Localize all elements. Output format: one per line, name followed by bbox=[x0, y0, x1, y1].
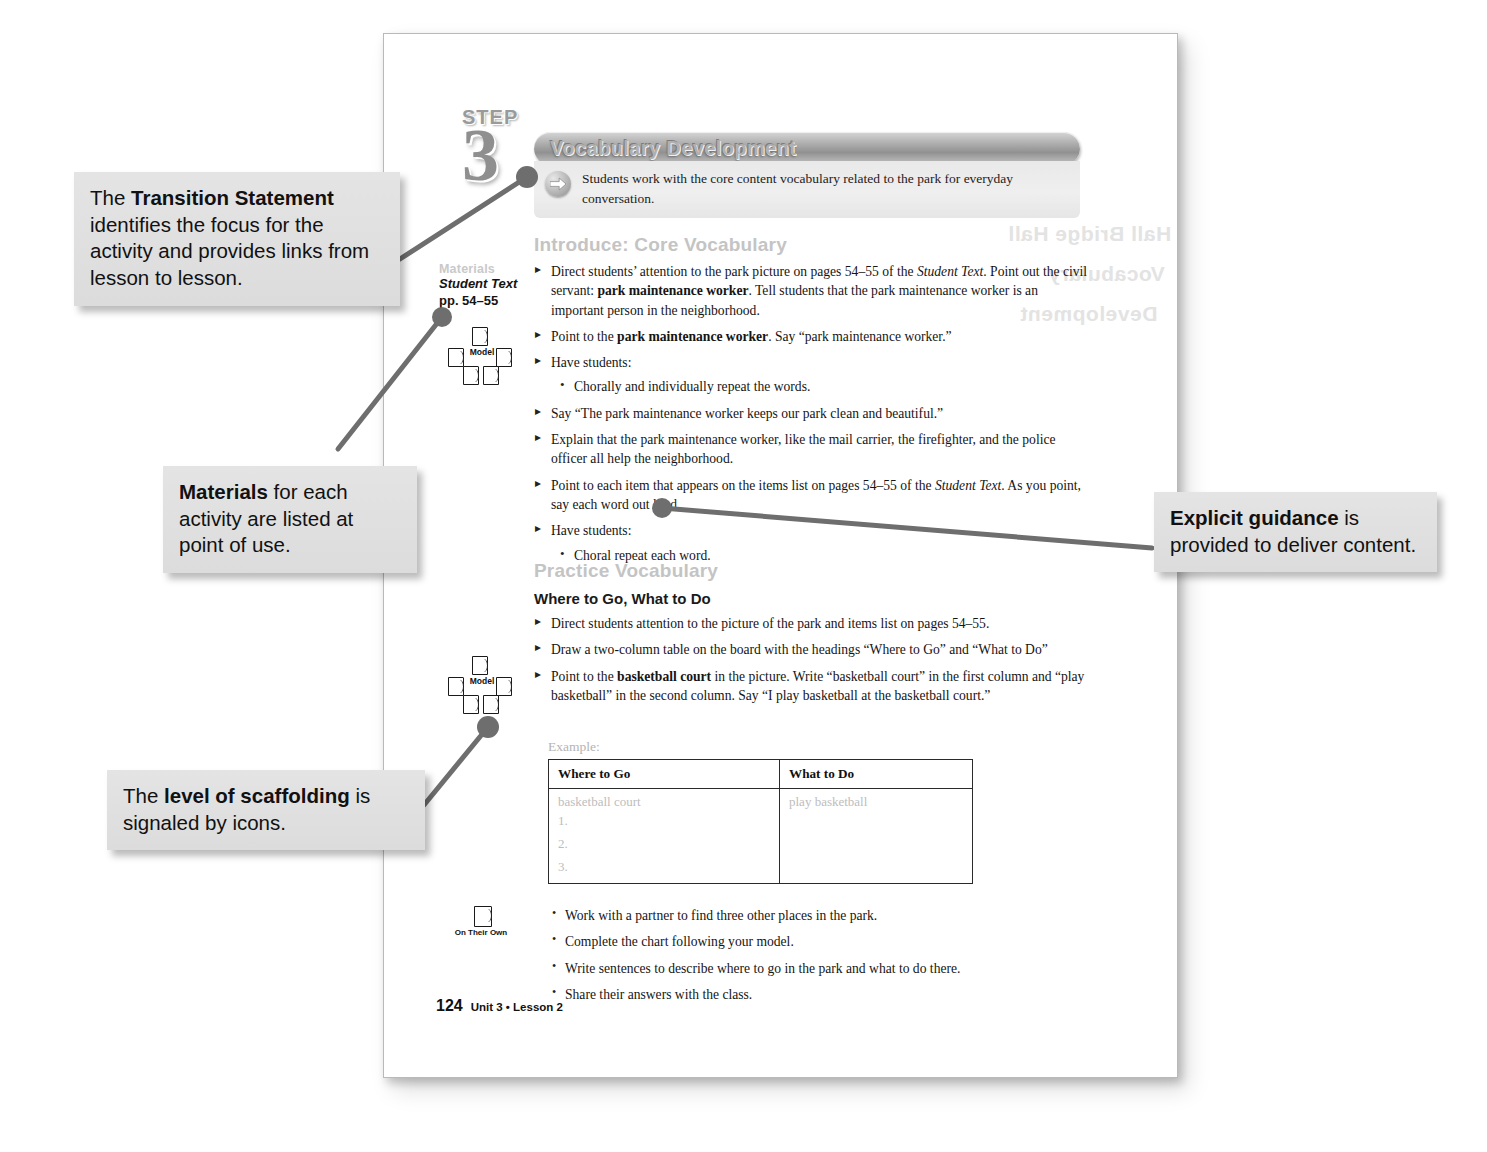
transition-statement-text: Students work with the core content voca… bbox=[582, 169, 1052, 208]
practice-item-2: Point to the basketball court in the pic… bbox=[534, 667, 1094, 706]
page-face-icon bbox=[463, 366, 479, 385]
introduce-item-0: Direct students’ attention to the park p… bbox=[534, 262, 1094, 320]
practice-vocabulary-list: Direct students attention to the picture… bbox=[534, 614, 1094, 712]
model-scaffolding-icon-1: Model bbox=[446, 327, 516, 383]
page-face-icon bbox=[472, 327, 488, 346]
page-face-icon bbox=[483, 366, 499, 385]
table-row: basketball court 1. 2. 3. play basketbal… bbox=[549, 789, 973, 884]
callout-scaffolding: The level of scaffolding is signaled by … bbox=[107, 770, 425, 850]
page-number: 124 bbox=[436, 997, 463, 1014]
practice-item-0: Direct students attention to the picture… bbox=[534, 614, 1094, 633]
table-cell-where-blank-2: 2. bbox=[558, 833, 770, 856]
model-icon-label: Model bbox=[465, 347, 499, 357]
table-cell-where: basketball court 1. 2. 3. bbox=[549, 789, 780, 884]
introduce-core-vocabulary-list: Direct students’ attention to the park p… bbox=[534, 262, 1094, 572]
page-face-icon bbox=[448, 348, 464, 367]
introduce-item-7: Have students: bbox=[534, 521, 1094, 540]
subsection-heading-where-to-go: Where to Go, What to Do bbox=[534, 590, 711, 607]
table-cell-what-example: play basketball bbox=[789, 794, 963, 810]
on-their-own-item-2: Write sentences to describe where to go … bbox=[548, 959, 1103, 978]
table-cell-what: play basketball bbox=[780, 789, 973, 884]
model-scaffolding-icon-2: Model bbox=[446, 656, 516, 712]
introduce-item-1: Point to the park maintenance worker. Sa… bbox=[534, 327, 1094, 346]
table-cell-where-example: basketball court bbox=[558, 794, 770, 810]
table-cell-where-blank-3: 3. bbox=[558, 856, 770, 879]
model-icon-label: Model bbox=[465, 676, 499, 686]
materials-line-1: Student Text bbox=[439, 276, 534, 293]
transition-statement-box: Students work with the core content voca… bbox=[534, 161, 1080, 218]
callout-transition-statement: The Transition Statement identifies the … bbox=[74, 172, 400, 306]
introduce-item-5: Explain that the park maintenance worker… bbox=[534, 430, 1094, 469]
on-their-own-item-1: Complete the chart following your model. bbox=[548, 932, 1103, 951]
materials-label: Materials bbox=[439, 262, 534, 276]
where-to-go-table: Where to Go What to Do basketball court … bbox=[548, 759, 973, 884]
footer-unit-lesson: Unit 3 • Lesson 2 bbox=[471, 1001, 563, 1013]
section-heading-introduce: Introduce: Core Vocabulary bbox=[534, 234, 787, 256]
callout-materials: Materials for each activity are listed a… bbox=[163, 466, 417, 573]
table-header-where: Where to Go bbox=[549, 760, 780, 789]
page-face-icon bbox=[483, 695, 499, 714]
introduce-item-2: Have students: bbox=[534, 353, 1094, 372]
page-face-icon bbox=[472, 656, 488, 675]
introduce-item-6: Point to each item that appears on the i… bbox=[534, 476, 1094, 515]
textbook-page-sheet: Hall Bridge Hall Vocabulary Development … bbox=[383, 33, 1178, 1078]
page-face-icon bbox=[463, 695, 479, 714]
on-their-own-item-3: Share their answers with the class. bbox=[548, 985, 1103, 1004]
example-label: Example: bbox=[548, 739, 600, 755]
on-their-own-item-0: Work with a partner to find three other … bbox=[548, 906, 1103, 925]
showthrough-line-1: Hall Bridge Hall bbox=[1008, 222, 1171, 246]
arrow-right-icon bbox=[545, 171, 571, 197]
callout-explicit-guidance: Explicit guidance is provided to deliver… bbox=[1154, 492, 1437, 572]
materials-block: Materials Student Text pp. 54–55 bbox=[439, 262, 534, 309]
practice-item-1: Draw a two-column table on the board wit… bbox=[534, 640, 1094, 659]
page-face-icon bbox=[474, 906, 492, 927]
table-header-row: Where to Go What to Do bbox=[549, 760, 973, 789]
introduce-item-3: Chorally and individually repeat the wor… bbox=[534, 377, 1094, 396]
table-header-what: What to Do bbox=[780, 760, 973, 789]
page-face-icon bbox=[448, 677, 464, 696]
materials-line-2: pp. 54–55 bbox=[439, 293, 534, 310]
page-footer: 124Unit 3 • Lesson 2 bbox=[436, 997, 563, 1015]
table-cell-where-blank-1: 1. bbox=[558, 810, 770, 833]
introduce-item-4: Say “The park maintenance worker keeps o… bbox=[534, 404, 1094, 423]
on-their-own-label: On Their Own bbox=[446, 928, 516, 937]
on-their-own-list: Work with a partner to find three other … bbox=[548, 906, 1103, 1011]
banner-title: Vocabulary Development bbox=[550, 137, 796, 160]
section-heading-practice: Practice Vocabulary bbox=[534, 560, 718, 582]
